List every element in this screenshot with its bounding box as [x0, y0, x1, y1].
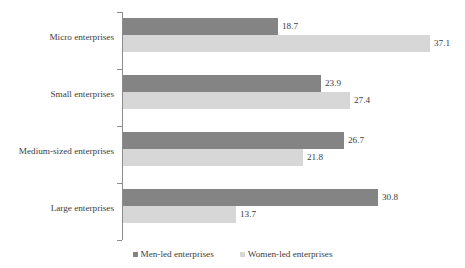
bar-women-micro[interactable] [123, 35, 430, 52]
bar-men-micro[interactable] [123, 18, 278, 35]
bar-chart: Micro enterprises 18.7 37.1 Small enterp… [0, 0, 465, 268]
bar-value-men-medium-sized: 26.7 [348, 132, 364, 149]
bar-men-small[interactable] [123, 75, 321, 92]
bar-value-men-small: 23.9 [325, 75, 341, 92]
axis-tick [117, 240, 122, 241]
bar-value-women-large: 13.7 [240, 206, 256, 223]
bar-value-women-small: 27.4 [354, 92, 370, 109]
category-label-small: Small enterprises [0, 89, 114, 100]
category-label-micro: Micro enterprises [0, 32, 114, 43]
bar-value-men-large: 30.8 [382, 189, 398, 206]
category-label-large: Large enterprises [0, 203, 114, 214]
legend-item-women-led[interactable]: Women-led enterprises [240, 249, 333, 259]
bar-value-women-medium-sized: 21.8 [307, 149, 323, 166]
bar-group: Medium-sized enterprises 26.7 21.8 [0, 126, 465, 183]
bar-value-men-micro: 18.7 [282, 18, 298, 35]
bar-women-medium-sized[interactable] [123, 149, 303, 166]
bar-men-medium-sized[interactable] [123, 132, 344, 149]
bar-group: Micro enterprises 18.7 37.1 [0, 12, 465, 69]
legend-label-women-led: Women-led enterprises [248, 249, 333, 259]
category-label-medium-sized: Medium-sized enterprises [0, 146, 114, 157]
bar-group: Large enterprises 30.8 13.7 [0, 183, 465, 240]
bar-women-large[interactable] [123, 206, 236, 223]
women-legend-swatch-icon [240, 252, 245, 257]
bar-value-women-micro: 37.1 [434, 35, 450, 52]
bar-group: Small enterprises 23.9 27.4 [0, 69, 465, 126]
bar-women-small[interactable] [123, 92, 350, 109]
legend-label-men-led: Men-led enterprises [141, 249, 214, 259]
bar-men-large[interactable] [123, 189, 378, 206]
plot-area: Micro enterprises 18.7 37.1 Small enterp… [0, 0, 465, 244]
men-legend-swatch-icon [133, 252, 138, 257]
legend-item-men-led[interactable]: Men-led enterprises [133, 249, 214, 259]
chart-legend: Men-led enterprises Women-led enterprise… [0, 246, 465, 262]
